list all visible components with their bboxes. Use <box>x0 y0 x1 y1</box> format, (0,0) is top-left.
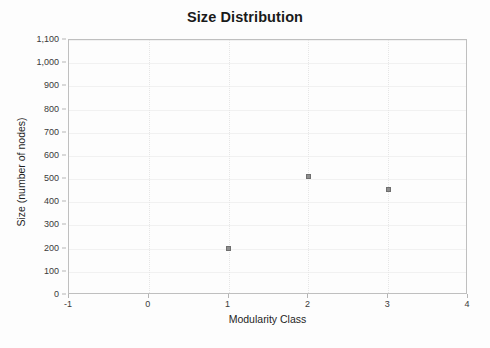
x-tick-mark <box>387 294 388 298</box>
x-tick-mark <box>228 294 229 298</box>
gridline-vertical <box>388 40 389 293</box>
gridline-horizontal <box>69 225 466 226</box>
gridline-vertical <box>229 40 230 293</box>
gridline-horizontal <box>69 40 466 41</box>
y-tick-mark <box>62 247 66 248</box>
gridline-horizontal <box>69 133 466 134</box>
y-tick-mark <box>62 224 66 225</box>
y-tick-label: 700 <box>44 127 59 136</box>
gridline-horizontal <box>69 86 466 87</box>
y-axis: 01002003004005006007008009001,0001,100 <box>0 39 66 294</box>
x-tick-label: 1 <box>225 300 230 309</box>
x-tick-label: -1 <box>64 300 72 309</box>
y-tick-label: 900 <box>44 81 59 90</box>
gridline-horizontal <box>69 272 466 273</box>
gridline-horizontal <box>69 249 466 250</box>
y-tick-mark <box>62 154 66 155</box>
y-tick-mark <box>62 270 66 271</box>
gridline-horizontal <box>69 179 466 180</box>
x-axis-label: Modularity Class <box>68 313 467 325</box>
y-tick-label: 1,000 <box>36 58 59 67</box>
x-tick-label: 2 <box>305 300 310 309</box>
x-tick-label: 3 <box>385 300 390 309</box>
gridline-horizontal <box>69 202 466 203</box>
y-axis-label: Size (number of nodes) <box>15 97 27 247</box>
y-tick-mark <box>62 294 66 295</box>
y-tick-mark <box>62 62 66 63</box>
y-tick-label: 600 <box>44 150 59 159</box>
chart-title: Size Distribution <box>0 9 490 25</box>
chart-container: Size Distribution 0100200300400500600700… <box>0 0 490 348</box>
y-tick-label: 0 <box>54 290 59 299</box>
y-tick-label: 800 <box>44 104 59 113</box>
y-tick-label: 500 <box>44 174 59 183</box>
y-tick-mark <box>62 131 66 132</box>
x-tick-mark <box>467 294 468 298</box>
gridline-horizontal <box>69 63 466 64</box>
x-tick-mark <box>68 294 69 298</box>
gridline-vertical <box>149 40 150 293</box>
x-tick-mark <box>307 294 308 298</box>
y-tick-mark <box>62 201 66 202</box>
gridline-horizontal <box>69 110 466 111</box>
y-tick-mark <box>62 108 66 109</box>
data-point[interactable] <box>306 174 311 179</box>
plot-area[interactable] <box>68 39 467 294</box>
x-tick-label: 4 <box>464 300 469 309</box>
y-tick-mark <box>62 178 66 179</box>
y-tick-label: 1,100 <box>36 35 59 44</box>
gridline-horizontal <box>69 156 466 157</box>
y-tick-label: 100 <box>44 266 59 275</box>
data-point[interactable] <box>386 187 391 192</box>
data-point[interactable] <box>226 246 231 251</box>
x-tick-label: 0 <box>145 300 150 309</box>
x-tick-mark <box>148 294 149 298</box>
y-tick-mark <box>62 39 66 40</box>
y-tick-label: 300 <box>44 220 59 229</box>
gridline-vertical <box>308 40 309 293</box>
y-tick-label: 400 <box>44 197 59 206</box>
y-tick-label: 200 <box>44 243 59 252</box>
y-tick-mark <box>62 85 66 86</box>
